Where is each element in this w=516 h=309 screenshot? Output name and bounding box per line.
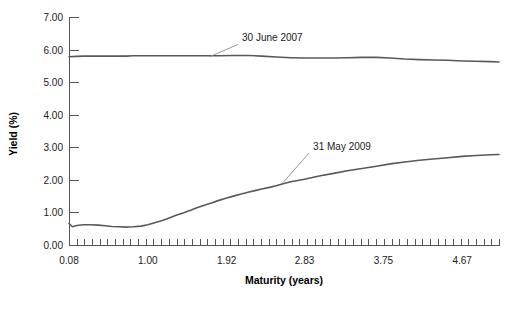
x-tick-label: 0.08 bbox=[59, 255, 79, 266]
y-tick-label: 5.00 bbox=[44, 77, 64, 88]
x-tick-label: 1.92 bbox=[217, 255, 237, 266]
x-tick-label: 4.67 bbox=[452, 255, 472, 266]
x-axis: 0.081.001.922.833.754.67 bbox=[59, 239, 499, 266]
series-line bbox=[69, 55, 499, 62]
yield-curve-chart: 0.001.002.003.004.005.006.007.00 0.081.0… bbox=[0, 0, 516, 309]
y-axis-title: Yield (%) bbox=[7, 112, 19, 156]
y-tick-label: 0.00 bbox=[44, 240, 64, 251]
y-tick-label: 1.00 bbox=[44, 207, 64, 218]
chart-figure: 0.001.002.003.004.005.006.007.00 0.081.0… bbox=[0, 0, 516, 309]
y-tick-label: 2.00 bbox=[44, 175, 64, 186]
y-tick-label: 3.00 bbox=[44, 142, 64, 153]
x-axis-title: Maturity (years) bbox=[245, 274, 323, 286]
series-annotation-label: 31 May 2009 bbox=[313, 141, 371, 152]
y-tick-label: 7.00 bbox=[44, 12, 64, 23]
series-lines bbox=[69, 55, 499, 227]
y-tick-label: 4.00 bbox=[44, 110, 64, 121]
x-tick-label: 2.83 bbox=[295, 255, 315, 266]
series-line bbox=[69, 154, 499, 227]
y-axis: 0.001.002.003.004.005.006.007.00 bbox=[44, 12, 79, 251]
series-annotation-label: 30 June 2007 bbox=[242, 32, 303, 43]
x-tick-label: 3.75 bbox=[374, 255, 394, 266]
x-tick-label: 1.00 bbox=[138, 255, 158, 266]
annotation-leader-line bbox=[283, 153, 309, 183]
y-tick-label: 6.00 bbox=[44, 45, 64, 56]
